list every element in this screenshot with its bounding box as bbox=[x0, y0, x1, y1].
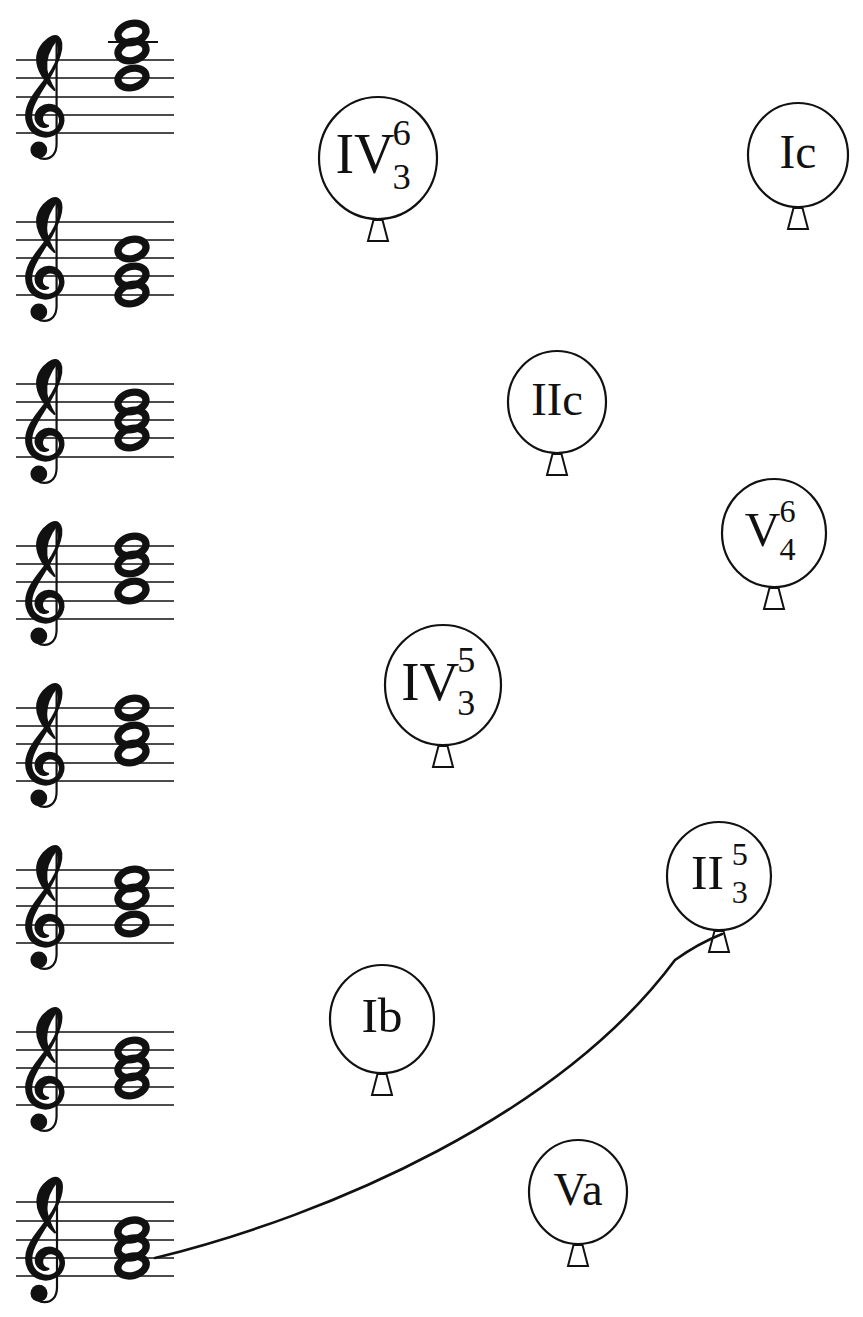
balloon-label: Ic bbox=[780, 126, 817, 178]
balloon-label: IIc bbox=[531, 374, 583, 425]
balloon-knot bbox=[788, 208, 808, 229]
balloon-label: IV bbox=[335, 123, 394, 185]
balloon-knot bbox=[568, 1245, 588, 1266]
clef-body bbox=[26, 1178, 64, 1280]
balloon-label: IV bbox=[401, 651, 459, 712]
balloon-label: V bbox=[745, 502, 781, 557]
balloon-label-superscript: 5 bbox=[732, 836, 748, 872]
balloon[interactable]: Ib bbox=[312, 947, 452, 1117]
chord-noteheads bbox=[116, 1217, 149, 1279]
balloon-knot bbox=[547, 454, 567, 475]
balloon[interactable]: V64 bbox=[704, 461, 844, 631]
balloon[interactable]: IV53 bbox=[367, 607, 519, 789]
balloon-label-subscript: 3 bbox=[392, 156, 410, 197]
balloon-label: Ib bbox=[361, 988, 402, 1043]
balloon[interactable]: II53 bbox=[649, 804, 789, 974]
balloon-knot bbox=[433, 746, 453, 767]
balloon[interactable]: IIc bbox=[490, 333, 624, 497]
notehead bbox=[116, 1253, 149, 1279]
worksheet-canvas: IV63IcIIcV64IV53II53IbVa bbox=[0, 0, 863, 1317]
balloon-label-superscript: 6 bbox=[779, 493, 795, 529]
balloon-label-superscript: 6 bbox=[392, 112, 410, 153]
balloon-knot bbox=[368, 220, 388, 241]
balloon-label: Va bbox=[553, 1164, 602, 1215]
balloon-label-subscript: 3 bbox=[732, 874, 748, 910]
clef-dot bbox=[31, 1285, 48, 1302]
balloon-knot bbox=[709, 931, 729, 952]
balloon[interactable]: Va bbox=[511, 1122, 645, 1288]
balloon-knot bbox=[764, 588, 784, 609]
balloon-label-superscript: 5 bbox=[457, 640, 475, 680]
balloon[interactable]: IV63 bbox=[301, 79, 455, 263]
balloon-label: II bbox=[691, 845, 724, 900]
balloon[interactable]: Ic bbox=[730, 85, 863, 251]
balloon-knot bbox=[372, 1074, 392, 1095]
balloon-label-subscript: 3 bbox=[457, 683, 475, 723]
balloon-label-subscript: 4 bbox=[779, 531, 795, 567]
